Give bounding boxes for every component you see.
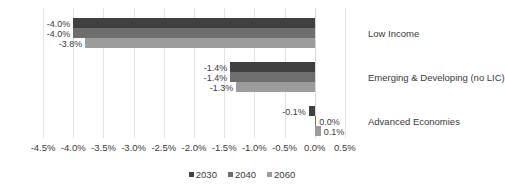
legend-label: 2030 bbox=[196, 169, 217, 180]
legend-label: 2040 bbox=[235, 169, 256, 180]
x-axis-tick-label: -2.0% bbox=[182, 142, 207, 153]
value-label: 0.0% bbox=[319, 117, 340, 127]
x-axis-tick-label: -2.5% bbox=[151, 142, 176, 153]
x-axis-tick-label: -1.5% bbox=[212, 142, 237, 153]
legend-item-2060[interactable]: 2060 bbox=[267, 169, 295, 180]
bar-2040-3 bbox=[315, 116, 317, 126]
bar-2060-1 bbox=[85, 38, 314, 48]
legend-label: 2060 bbox=[274, 169, 295, 180]
value-label: -4.0% bbox=[47, 19, 71, 29]
gridline bbox=[43, 8, 44, 138]
value-label: -1.4% bbox=[204, 63, 228, 73]
value-label: -0.1% bbox=[282, 107, 306, 117]
legend-swatch-icon bbox=[189, 172, 194, 177]
x-axis-tick-label: -4.0% bbox=[61, 142, 86, 153]
value-label: 0.1% bbox=[324, 127, 345, 137]
bar-2030-1 bbox=[73, 18, 314, 28]
category-label: Low Income bbox=[368, 28, 419, 39]
x-axis-tick-label: -4.5% bbox=[31, 142, 56, 153]
bar-2030-3 bbox=[309, 106, 315, 116]
x-axis-tick-label: -1.0% bbox=[242, 142, 267, 153]
x-axis-tick-label: 0.5% bbox=[334, 142, 356, 153]
category-label: Emerging & Developing (no LIC) bbox=[368, 72, 505, 83]
bar-2060-3 bbox=[315, 126, 321, 136]
bar-2060-2 bbox=[236, 82, 314, 92]
chart-legend: 203020402060 bbox=[0, 169, 484, 180]
value-label: -3.8% bbox=[59, 39, 83, 49]
value-label: -1.3% bbox=[210, 83, 234, 93]
plot-area: -4.0%-4.0%-3.8%-1.4%-1.4%-1.3%-0.1%0.0%0… bbox=[28, 8, 360, 138]
bar-2040-1 bbox=[73, 28, 314, 38]
gridline bbox=[345, 8, 346, 138]
legend-swatch-icon bbox=[228, 172, 233, 177]
value-label: -4.0% bbox=[47, 29, 71, 39]
x-axis-tick-label: -0.5% bbox=[272, 142, 297, 153]
bar-2040-2 bbox=[230, 72, 315, 82]
legend-item-2030[interactable]: 2030 bbox=[189, 169, 217, 180]
category-label: Advanced Economies bbox=[368, 116, 460, 127]
x-axis-tick-label: -3.0% bbox=[121, 142, 146, 153]
x-axis-tick-label: -3.5% bbox=[91, 142, 116, 153]
value-label: -1.4% bbox=[204, 73, 228, 83]
x-axis-tick-label: 0.0% bbox=[304, 142, 326, 153]
legend-swatch-icon bbox=[267, 172, 272, 177]
bar-2030-2 bbox=[230, 62, 315, 72]
legend-item-2040[interactable]: 2040 bbox=[228, 169, 256, 180]
